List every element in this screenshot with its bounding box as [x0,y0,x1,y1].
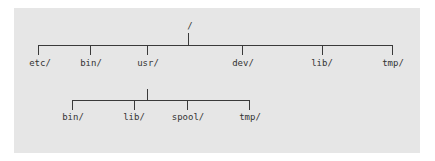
node-lib: lib/ [311,58,333,69]
drop-dev [242,45,243,55]
drop-etc [38,45,39,55]
node-usr: usr/ [137,58,159,69]
node-dev: dev/ [232,58,254,69]
drop-bin [90,45,91,55]
node-usr-lib: lib/ [123,112,145,123]
usr-stem [147,89,148,100]
root-stem [188,33,189,45]
level2-connector [72,100,250,101]
node-usr-bin: bin/ [62,112,84,123]
drop-usr-bin [72,100,73,110]
drop-usr [147,45,148,55]
drop-usr-spool [187,100,188,110]
diagram-panel [14,8,420,153]
node-usr-tmp: tmp/ [239,112,261,123]
drop-usr-tmp [249,100,250,110]
node-bin: bin/ [80,58,102,69]
drop-lib [322,45,323,55]
node-tmp: tmp/ [382,58,404,69]
drop-usr-lib [134,100,135,110]
drop-tmp [392,45,393,55]
node-root: / [187,21,192,32]
node-usr-spool: spool/ [172,112,205,123]
level1-connector [38,45,393,46]
node-etc: etc/ [29,58,51,69]
